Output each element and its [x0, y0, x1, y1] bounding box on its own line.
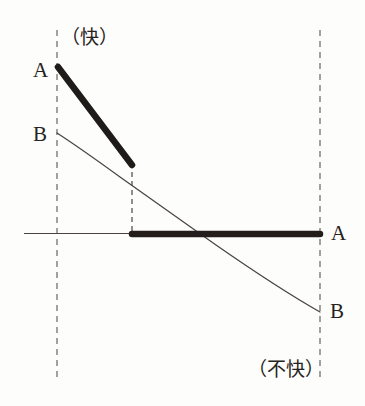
figure-container: （快） （不快） A B A B	[0, 0, 365, 406]
series-a-descending-segment	[58, 67, 132, 165]
series-a-end-label: A	[331, 223, 346, 244]
series-b-end-label: B	[330, 301, 344, 322]
series-a-start-label: A	[33, 60, 48, 81]
axis-label-pleasant: （快）	[61, 28, 118, 47]
series-b-start-label: B	[33, 124, 47, 145]
figure-canvas	[0, 0, 365, 406]
axis-label-unpleasant: （不快）	[248, 360, 324, 379]
series-b-curve	[57, 133, 320, 312]
